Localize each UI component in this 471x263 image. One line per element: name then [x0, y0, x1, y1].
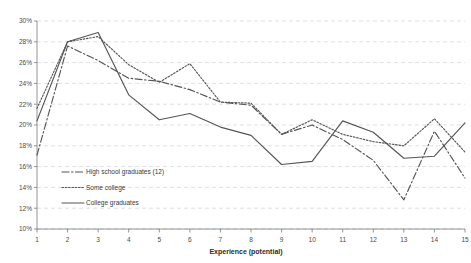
legend-label-0: High school graduates (12) [86, 168, 164, 176]
x-tick-label: 12 [370, 236, 378, 243]
x-tick-label: 9 [280, 236, 284, 243]
y-tick-label: 20% [19, 121, 32, 128]
legend-label-1: Some college [86, 184, 126, 192]
x-tick-label: 8 [249, 236, 253, 243]
gridlines-group [37, 21, 465, 229]
y-tick-label: 24% [19, 80, 32, 87]
y-tick-label: 28% [19, 38, 32, 45]
x-tick-label: 4 [127, 236, 131, 243]
series-line-2 [37, 32, 465, 164]
x-tick-label: 10 [309, 236, 317, 243]
x-tick-label: 13 [400, 236, 408, 243]
y-tick-label: 12% [19, 205, 32, 212]
y-tick-label: 14% [19, 184, 32, 191]
x-axis-title: Experience (potential) [209, 248, 282, 256]
series-line-0 [37, 46, 465, 200]
x-tick-label: 6 [188, 236, 192, 243]
x-tick-label: 7 [219, 236, 223, 243]
line-chart: 10%12%14%16%18%20%22%24%26%28%30% 123456… [0, 0, 471, 263]
y-tick-label: 18% [19, 142, 32, 149]
x-tick-label: 2 [66, 236, 70, 243]
x-tick-label: 14 [431, 236, 439, 243]
y-tick-label: 30% [19, 17, 32, 24]
x-tick-label: 11 [339, 236, 346, 243]
x-axis-ticks-group: 123456789101112131415 [35, 229, 469, 243]
chart-canvas: 10%12%14%16%18%20%22%24%26%28%30% 123456… [0, 0, 471, 263]
y-tick-label: 26% [19, 59, 32, 66]
x-tick-label: 5 [157, 236, 161, 243]
series-line-1 [37, 37, 465, 152]
legend-label-2: College graduates [86, 199, 140, 207]
x-tick-label: 3 [96, 236, 100, 243]
chart-legend: High school graduates (12)Some collegeCo… [62, 168, 164, 207]
y-tick-label: 16% [19, 163, 32, 170]
y-tick-label: 10% [19, 225, 32, 232]
x-tick-label: 1 [35, 236, 39, 243]
y-axis-ticks-group: 10%12%14%16%18%20%22%24%26%28%30% [19, 17, 37, 232]
y-tick-label: 22% [19, 101, 32, 108]
x-tick-label: 15 [461, 236, 469, 243]
